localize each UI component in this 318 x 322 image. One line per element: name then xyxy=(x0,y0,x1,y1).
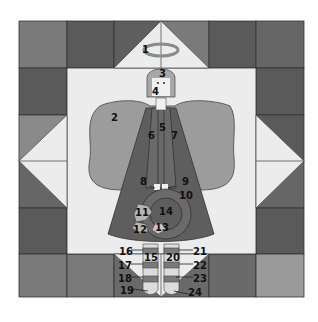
label-3: 3 xyxy=(159,68,166,79)
label-9: 9 xyxy=(182,176,189,187)
label-17: 17 xyxy=(118,260,132,271)
label-2: 2 xyxy=(111,112,118,123)
neck xyxy=(156,98,166,110)
label-23: 23 xyxy=(193,273,207,284)
hand-left xyxy=(154,184,160,190)
label-19: 19 xyxy=(120,285,134,296)
label-6: 6 xyxy=(148,130,155,141)
label-18: 18 xyxy=(118,273,132,284)
angel-quilt-diagram: 1 2 3 4 5 6 7 8 9 10 11 12 13 14 15 16 1… xyxy=(0,0,318,322)
label-16: 16 xyxy=(119,246,133,257)
label-22: 22 xyxy=(193,260,207,271)
label-12: 12 xyxy=(133,224,147,235)
label-10: 10 xyxy=(179,190,193,201)
label-20: 20 xyxy=(166,252,180,263)
label-4: 4 xyxy=(152,86,159,97)
label-11: 11 xyxy=(135,207,149,218)
label-15: 15 xyxy=(144,252,158,263)
label-14: 14 xyxy=(159,206,173,217)
label-21: 21 xyxy=(193,246,207,257)
label-7: 7 xyxy=(171,130,178,141)
label-24: 24 xyxy=(188,287,202,298)
label-1: 1 xyxy=(142,44,149,55)
label-13: 13 xyxy=(155,222,169,233)
label-5: 5 xyxy=(159,122,166,133)
label-8: 8 xyxy=(140,176,147,187)
